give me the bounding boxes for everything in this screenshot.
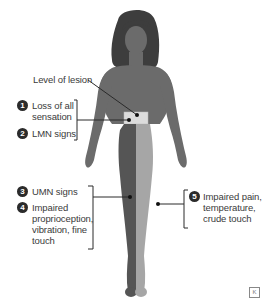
body-figure	[0, 0, 267, 301]
callout-2: 2 LMN signs	[17, 128, 77, 140]
number-badge-5: 5	[189, 191, 200, 202]
callout-5-line-1: Impaired pain,	[203, 191, 262, 202]
callout-5: 5 Impaired pain, temperature, crude touc…	[189, 191, 264, 227]
number-badge-3: 3	[17, 186, 28, 197]
callout-4: 4 Impaired proprioception, vibration, fi…	[17, 202, 92, 250]
publisher-logo-icon: K	[249, 287, 260, 298]
number-badge-1: 1	[17, 100, 28, 111]
bracket-5	[184, 190, 188, 228]
number-badge-2: 2	[17, 128, 28, 139]
callout-4-line-3: vibration, fine	[32, 224, 87, 235]
callout-5-line-3: crude touch	[203, 213, 252, 224]
callout-2-line-1: LMN signs	[32, 128, 76, 139]
callout-1-line-1: Loss of all	[32, 100, 74, 111]
head-shape	[125, 26, 147, 54]
callout-4-line-4: touch	[32, 235, 55, 246]
number-badge-4: 4	[17, 202, 28, 213]
diagram-canvas: Level of lesion 1 Loss of all sensation …	[0, 0, 267, 301]
callout-4-line-2: proprioception,	[32, 213, 93, 224]
callout-5-line-2: temperature,	[203, 202, 256, 213]
right-arm-shape	[160, 70, 187, 168]
contralateral-lower-body	[136, 124, 153, 295]
lesion-label: Level of lesion	[33, 74, 92, 85]
ipsilateral-lower-body	[119, 124, 137, 295]
callout-4-line-1: Impaired	[32, 202, 68, 213]
callout-1: 1 Loss of all sensation	[17, 100, 77, 124]
callout-3: 3 UMN signs	[17, 186, 87, 198]
callout-3-line-1: UMN signs	[32, 186, 78, 197]
callout-1-line-2: sensation	[32, 111, 72, 122]
